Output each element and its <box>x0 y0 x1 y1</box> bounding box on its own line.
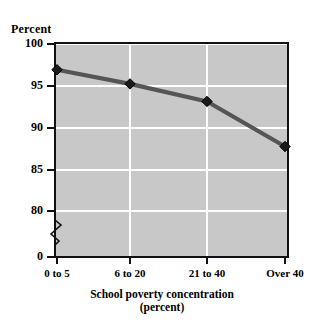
gridline-90 <box>56 127 288 129</box>
y-tick-label-0: 0 <box>3 250 43 262</box>
x-axis-line <box>54 256 289 258</box>
y-tick-90 <box>47 127 55 129</box>
x-axis-title-line2: (percent) <box>0 301 324 314</box>
axis-break-icon <box>45 214 67 250</box>
plot-area <box>55 43 288 257</box>
x-tick-label-over-40: Over 40 <box>245 267 324 279</box>
x-tick-label-21-to-40: 21 to 40 <box>167 267 247 279</box>
y-tick-80 <box>47 210 55 212</box>
y-tick-0 <box>47 256 55 258</box>
x-tick-21-to-40 <box>206 257 208 264</box>
x-tick-over-40 <box>284 257 286 264</box>
x-tick-0-to-5 <box>56 257 58 264</box>
gridline-85 <box>56 169 288 171</box>
gridline-95 <box>56 85 288 87</box>
plot-frame-top <box>54 42 289 44</box>
y-axis-label: Percent <box>11 22 52 37</box>
chart-figure: Percent 100 95 90 85 80 0 0 to 5 6 to 20… <box>0 0 324 326</box>
y-tick-label-90: 90 <box>3 121 43 133</box>
x-axis-title: School poverty concentration (percent) <box>0 288 324 314</box>
y-tick-label-100: 100 <box>3 37 43 49</box>
x-tick-label-6-to-20: 6 to 20 <box>90 267 170 279</box>
x-axis-title-line1: School poverty concentration <box>0 288 324 301</box>
gridline-x-21-to-40 <box>206 44 208 256</box>
y-tick-label-80: 80 <box>3 204 43 216</box>
y-tick-label-95: 95 <box>3 79 43 91</box>
plot-frame-right <box>287 42 289 258</box>
gridline-x-6-to-20 <box>129 44 131 256</box>
y-tick-85 <box>47 169 55 171</box>
x-tick-6-to-20 <box>129 257 131 264</box>
x-tick-label-0-to-5: 0 to 5 <box>17 267 97 279</box>
y-tick-95 <box>47 85 55 87</box>
y-tick-100 <box>47 43 55 45</box>
gridline-80 <box>56 210 288 212</box>
y-tick-label-85: 85 <box>3 163 43 175</box>
